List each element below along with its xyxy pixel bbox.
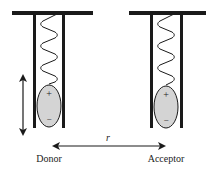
- donor-spring: [41, 14, 58, 84]
- donor-right-rail: [62, 13, 65, 128]
- acceptor-spring: [158, 14, 175, 85]
- acceptor-label: Acceptor: [148, 153, 185, 164]
- donor-top-bar: [12, 11, 93, 15]
- donor-plus-sign: +: [46, 88, 52, 99]
- fret-dipole-diagram: + − + − r Donor Acceptor: [0, 0, 215, 174]
- acceptor-plus-sign: +: [163, 89, 169, 100]
- acceptor-right-rail: [180, 13, 183, 128]
- donor-minus-sign: −: [46, 114, 51, 124]
- acceptor-left-rail: [150, 13, 153, 128]
- distance-label: r: [106, 132, 110, 143]
- acceptor-minus-sign: −: [163, 115, 168, 125]
- acceptor-oscillator: + −: [129, 11, 206, 128]
- acceptor-top-bar: [129, 11, 206, 15]
- donor-left-rail: [33, 13, 36, 128]
- donor-label: Donor: [36, 153, 62, 164]
- donor-oscillator: + −: [12, 11, 93, 128]
